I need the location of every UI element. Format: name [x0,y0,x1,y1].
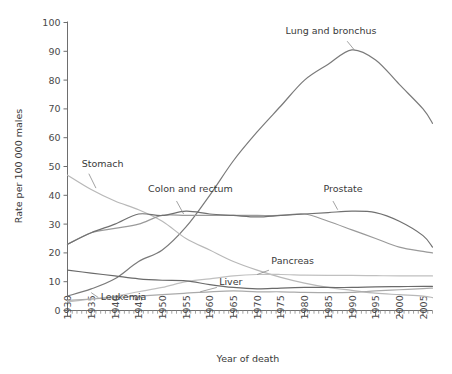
y-tick-label: 70 [48,103,60,114]
series-line-prostate [68,211,433,247]
y-tick-label: 60 [48,132,60,143]
x-tick-label: 1950 [157,295,168,319]
y-tick-label: 0 [54,305,60,316]
x-tick-label: 1975 [275,295,286,319]
series-label-stomach: Stomach [82,158,124,169]
y-tick-label: 20 [48,247,60,258]
series-line-stomach [68,175,433,297]
series-line-colon-and-rectum [68,214,433,253]
x-tick-label: 1930 [62,295,73,319]
y-tick-label: 30 [48,219,60,230]
x-tick-label: 1995 [370,295,381,319]
prostate-leader [333,201,338,210]
chart-root: 0102030405060708090100 19301935194019451… [0,0,452,374]
y-tick-label: 80 [48,75,60,86]
y-tick-label: 90 [48,46,60,57]
series-label-leukemia: Leukemia [101,291,147,302]
series-label-liver: Liver [219,276,242,287]
series-curves [68,50,433,302]
x-tick-label: 1965 [228,295,239,319]
x-tick-label: 1985 [323,295,334,319]
cancer-death-rates-line-chart: 0102030405060708090100 19301935194019451… [0,0,452,374]
y-tick-label: 50 [48,161,60,172]
series-line-leukemia [68,270,433,289]
leader-lines [89,41,354,297]
series-label-pancreas: Pancreas [271,255,314,266]
x-tick-label: 1980 [299,295,310,319]
lung-leader [347,41,354,50]
x-tick-label: 1990 [347,295,358,319]
y-tick-label: 10 [48,276,60,287]
series-label-lung-and-bronchus: Lung and bronchus [286,25,377,36]
series-line-lung-and-bronchus [68,50,433,296]
x-tick-label: 1970 [252,295,263,319]
x-tick-label: 2005 [418,295,429,319]
y-axis: 0102030405060708090100 [42,17,67,316]
stomach-leader [89,174,96,188]
x-tick-label: 2000 [394,295,405,319]
y-tick-label: 40 [48,190,60,201]
y-tick-label: 100 [42,17,60,28]
x-tick-label: 1955 [181,295,192,319]
series-labels: Lung and bronchusStomachColon and rectum… [82,25,377,302]
y-axis-title: Rate per 100 000 males [13,109,24,223]
x-tick-label: 1960 [204,295,215,319]
series-label-prostate: Prostate [323,183,362,194]
x-axis-title: Year of death [216,353,280,364]
series-label-colon-and-rectum: Colon and rectum [148,183,233,194]
